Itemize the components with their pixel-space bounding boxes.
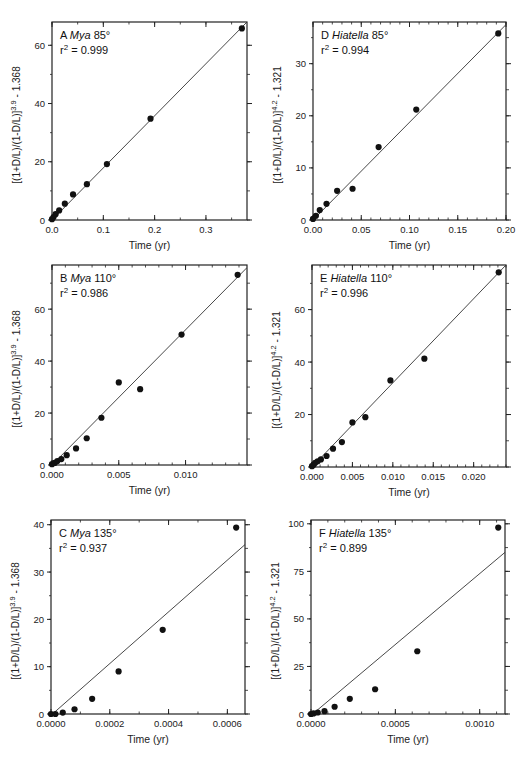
y-tick-label: 20 xyxy=(294,409,305,420)
data-point xyxy=(339,439,345,445)
x-tick-label: 0.0000 xyxy=(36,718,65,729)
data-point xyxy=(495,525,501,531)
x-axis-title: Time (yr) xyxy=(127,733,169,745)
y-tick-label: 40 xyxy=(294,357,305,368)
y-tick-label: 60 xyxy=(34,304,45,315)
data-point xyxy=(89,696,95,702)
y-tick-label: 40 xyxy=(34,98,45,109)
y-tick-label: 0 xyxy=(299,709,304,720)
panel-label: D Hiatella 85° xyxy=(321,29,388,41)
x-tick-label: 0.0010 xyxy=(465,718,494,729)
data-point xyxy=(414,648,420,654)
data-point xyxy=(84,435,90,441)
data-point xyxy=(376,144,382,150)
data-point xyxy=(116,379,122,385)
r-squared-label: r2 = 0.999 xyxy=(60,43,108,56)
y-axis-title: [(1+D/L)/(1-D/L)]3.9 - 1.368 xyxy=(9,310,22,428)
y-tick-label: 0 xyxy=(40,460,45,471)
x-tick-label: 0.20 xyxy=(497,224,516,235)
y-tick-label: 0 xyxy=(40,215,45,226)
data-point xyxy=(233,524,239,530)
x-axis-title: Time (yr) xyxy=(388,486,430,498)
y-tick-label: 40 xyxy=(33,519,44,530)
x-tick-label: 0.0006 xyxy=(213,718,242,729)
y-axis-title: [(1+D/L)/(1-D/L)]4.2 - 1.321 xyxy=(268,562,281,680)
data-point xyxy=(330,446,336,452)
data-point xyxy=(317,207,323,213)
x-tick-label: 0.005 xyxy=(341,471,365,482)
y-tick-label: 100 xyxy=(288,518,304,529)
data-point xyxy=(160,627,166,633)
data-point xyxy=(421,356,427,362)
data-point xyxy=(98,415,104,421)
data-point xyxy=(315,709,321,715)
y-axis-title: [(1+D/L)/(1-D/L)]3.9 - 1.368 xyxy=(8,562,21,680)
x-tick-label: 0.010 xyxy=(174,469,198,480)
data-point xyxy=(323,453,329,459)
x-axis-title: Time (yr) xyxy=(129,484,171,496)
x-tick-label: 0.020 xyxy=(462,471,486,482)
data-point xyxy=(387,377,393,383)
data-point xyxy=(413,106,419,112)
x-tick-label: 0.0004 xyxy=(154,718,183,729)
y-tick-label: 25 xyxy=(293,661,304,672)
data-point xyxy=(71,706,77,712)
y-tick-label: 40 xyxy=(34,356,45,367)
data-point xyxy=(372,686,378,692)
r-squared-label: r2 = 0.994 xyxy=(321,43,369,56)
y-tick-label: 0 xyxy=(39,709,44,720)
data-point xyxy=(104,161,110,167)
panel-a: 0.00.10.20.30204060Time (yr)[(1+D/L)/(1-… xyxy=(9,22,252,251)
x-tick-label: 0.15 xyxy=(449,224,468,235)
x-tick-label: 0.0002 xyxy=(95,718,124,729)
data-point xyxy=(349,186,355,192)
data-point xyxy=(58,456,64,462)
panel-label: A Mya 85° xyxy=(60,29,110,41)
data-point xyxy=(235,272,241,278)
data-point xyxy=(73,445,79,451)
data-point xyxy=(70,191,76,197)
data-point xyxy=(332,704,338,710)
data-point xyxy=(362,414,368,420)
data-point xyxy=(116,668,122,674)
x-axis-title: Time (yr) xyxy=(387,733,429,745)
y-tick-label: 0 xyxy=(300,462,305,473)
y-tick-label: 20 xyxy=(34,156,45,167)
regression-line xyxy=(313,552,505,714)
panel-label: F Hiatella 135° xyxy=(319,527,391,539)
panel-d: 0.000.050.100.150.200102030Time (yr)[(1+… xyxy=(270,22,515,251)
y-tick-label: 30 xyxy=(33,567,44,578)
data-point xyxy=(52,711,58,717)
x-tick-label: 0.005 xyxy=(107,469,131,480)
y-tick-label: 60 xyxy=(294,304,305,315)
data-point xyxy=(313,213,319,219)
y-tick-label: 20 xyxy=(295,110,306,121)
x-tick-label: 0.05 xyxy=(352,224,371,235)
x-tick-label: 0.0 xyxy=(45,224,58,235)
panel-b: 0.0000.0050.0100204060Time (yr)[(1+D/L)/… xyxy=(9,265,252,496)
x-tick-label: 0.1 xyxy=(97,224,110,235)
data-point xyxy=(321,708,327,714)
x-tick-label: 0.2 xyxy=(148,224,161,235)
x-tick-label: 0.010 xyxy=(381,471,405,482)
data-point xyxy=(56,207,62,213)
panel-label: E Hiatella 110° xyxy=(320,272,392,284)
x-axis-title: Time (yr) xyxy=(129,239,171,251)
data-point xyxy=(178,332,184,338)
x-axis-title: Time (yr) xyxy=(389,239,431,251)
data-point xyxy=(147,116,153,122)
panel-e: 0.0000.0050.0100.0150.0200204060Time (yr… xyxy=(269,265,511,498)
data-point xyxy=(334,188,340,194)
r-squared-label: r2 = 0.937 xyxy=(59,541,107,554)
data-point xyxy=(349,419,355,425)
y-tick-label: 50 xyxy=(293,613,304,624)
data-point xyxy=(137,386,143,392)
x-tick-label: 0.10 xyxy=(400,224,419,235)
figure-canvas: 0.00.10.20.30204060Time (yr)[(1+D/L)/(1-… xyxy=(0,0,525,758)
y-tick-label: 20 xyxy=(34,408,45,419)
y-tick-label: 10 xyxy=(295,162,306,173)
y-tick-label: 30 xyxy=(295,58,306,69)
data-point xyxy=(347,696,353,702)
panel-label: C Mya 135° xyxy=(59,527,117,539)
x-tick-label: 0.000 xyxy=(300,471,324,482)
